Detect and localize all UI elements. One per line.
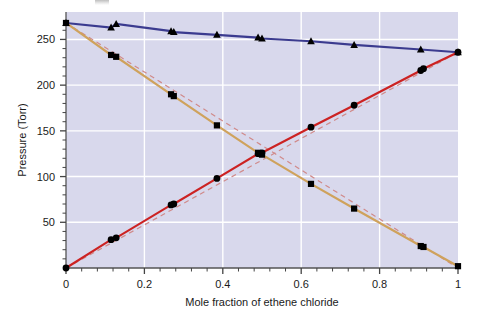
y-axis-title: Pressure (Torr) xyxy=(16,103,28,176)
data-point xyxy=(308,124,315,131)
data-point xyxy=(308,181,314,187)
x-tick-label: 0.6 xyxy=(294,278,309,290)
x-tick-label: 0.8 xyxy=(372,278,387,290)
y-tick-label: 200 xyxy=(37,79,55,91)
x-tick-label: 1 xyxy=(455,278,461,290)
data-point xyxy=(113,54,119,60)
data-point xyxy=(214,175,221,182)
data-point xyxy=(170,201,177,208)
plot-background xyxy=(66,12,458,268)
data-point xyxy=(455,49,462,56)
data-point xyxy=(63,20,69,26)
y-tick-label: 50 xyxy=(43,216,55,228)
data-point xyxy=(420,65,427,72)
x-tick-label: 0.2 xyxy=(137,278,152,290)
data-point xyxy=(63,265,70,272)
cropped-caption-remnant xyxy=(95,0,109,5)
pressure-vs-mole-fraction-chart: 5010015020025000.20.40.60.81Mole fractio… xyxy=(0,0,482,320)
data-point xyxy=(455,263,461,269)
data-point xyxy=(113,234,120,241)
data-point xyxy=(259,152,265,158)
data-point xyxy=(351,102,358,109)
data-point xyxy=(214,122,220,128)
y-tick-label: 250 xyxy=(37,33,55,45)
y-tick-label: 150 xyxy=(37,125,55,137)
data-point xyxy=(171,93,177,99)
y-tick-label: 100 xyxy=(37,171,55,183)
chart-figure: 5010015020025000.20.40.60.81Mole fractio… xyxy=(0,0,482,320)
data-point xyxy=(420,244,426,250)
x-axis-title: Mole fraction of ethene chloride xyxy=(185,296,338,308)
x-tick-label: 0 xyxy=(63,278,69,290)
data-point xyxy=(351,205,357,211)
x-tick-label: 0.4 xyxy=(215,278,230,290)
